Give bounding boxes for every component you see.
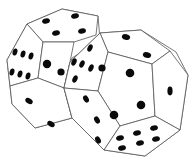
pip <box>57 68 64 75</box>
pip <box>110 111 119 120</box>
pip <box>137 101 146 110</box>
pip <box>98 64 105 71</box>
dice-illustration <box>0 0 192 164</box>
pip <box>126 69 135 78</box>
pip <box>167 87 172 96</box>
pip <box>43 60 51 68</box>
